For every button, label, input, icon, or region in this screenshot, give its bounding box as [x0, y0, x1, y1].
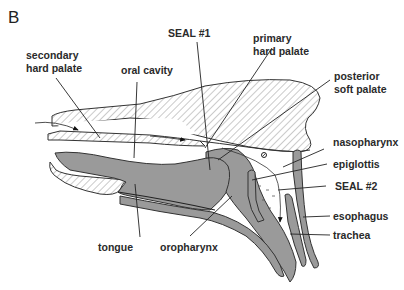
label-oral-cavity: oral cavity [121, 64, 173, 77]
label-seal-1: SEAL #1 [168, 27, 210, 40]
label-tongue: tongue [98, 241, 133, 254]
label-primary-hard-palate: primary hard palate [253, 32, 309, 57]
label-secondary-hard-palate: secondary hard palate [26, 49, 82, 74]
label-oropharynx: oropharynx [160, 241, 218, 254]
panel-letter: B [8, 8, 19, 28]
label-esophagus: esophagus [333, 210, 388, 223]
label-posterior-soft-palate: posterior soft palate [334, 70, 387, 95]
anatomical-diagram: B secondary hard palate oral cavity SEAL… [0, 0, 404, 290]
label-trachea: trachea [333, 229, 370, 242]
label-seal-2: SEAL #2 [335, 180, 377, 193]
label-epiglottis: epiglottis [333, 158, 380, 171]
label-nasopharynx: nasopharynx [333, 136, 398, 149]
